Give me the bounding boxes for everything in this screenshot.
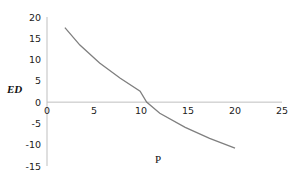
y-tick-label: 5 (35, 75, 41, 86)
y-tick-label: 0 (35, 97, 41, 108)
x-tick-labels: 0510152025 (44, 105, 288, 116)
y-tick-label: 15 (29, 33, 41, 44)
y-tick-label: -15 (25, 161, 41, 172)
y-tick-labels: 20151050-5-10-15 (25, 12, 41, 172)
x-tick-label: 10 (135, 105, 147, 116)
y-tick-label: -10 (25, 139, 41, 150)
x-tick-label: 15 (182, 105, 194, 116)
ed-curve (65, 28, 235, 149)
y-tick-label: -5 (32, 118, 41, 129)
x-tick-label: 20 (229, 105, 241, 116)
y-axis-label: ED (6, 83, 22, 95)
y-tick-label: 20 (29, 12, 41, 23)
x-axis-label: P (155, 153, 161, 165)
axes (47, 17, 282, 166)
ed-vs-p-line-chart: 20151050-5-10-15 0510152025 ED P (0, 0, 301, 177)
x-tick-label: 25 (276, 105, 288, 116)
y-tick-label: 10 (29, 54, 41, 65)
x-tick-label: 0 (44, 105, 50, 116)
x-tick-label: 5 (91, 105, 97, 116)
